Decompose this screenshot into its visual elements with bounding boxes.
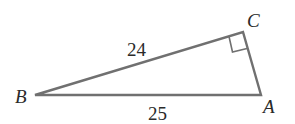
vertex-label-c: C — [247, 10, 260, 31]
vertex-label-b: B — [15, 86, 27, 107]
triangle-abc — [35, 32, 261, 95]
side-label-ba: 25 — [148, 103, 167, 124]
triangle-diagram: B C A 24 25 — [0, 0, 295, 124]
side-label-bc: 24 — [127, 39, 147, 60]
vertex-label-a: A — [261, 96, 275, 117]
